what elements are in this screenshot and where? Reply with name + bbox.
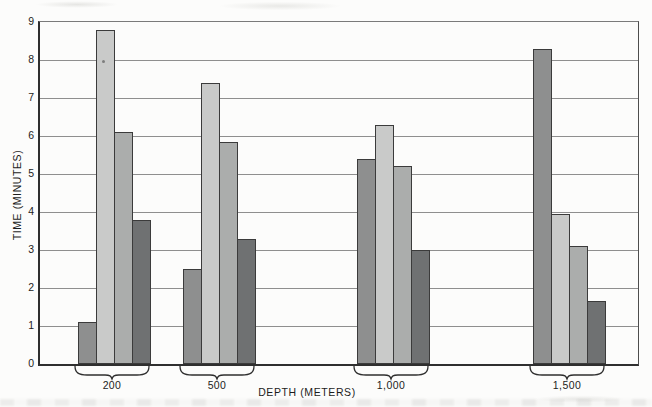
x-axis-title: DEPTH (METERS) <box>227 386 387 398</box>
x-category-label-1500: 1,500 <box>532 379 602 391</box>
bar-bar-1-medium-gray-depth-200 <box>78 322 97 364</box>
y-tick-label-1: 1 <box>10 319 34 331</box>
y-tick-label-2: 2 <box>10 281 34 293</box>
plot-area <box>38 21 639 366</box>
bar-bar-4-dark-gray-depth-1000 <box>411 250 430 364</box>
scan-smudge-top-left <box>22 0 132 9</box>
bar-bar-4-dark-gray-depth-500 <box>237 239 256 364</box>
depth-time-bar-chart: TIME (MINUTES) 0123456789 2005001,0001,5… <box>0 0 652 407</box>
y-tick-label-9: 9 <box>10 15 34 27</box>
x-category-label-200: 200 <box>77 379 147 391</box>
bar-bar-2-light-gray-depth-500 <box>201 83 220 364</box>
bar-bar-4-dark-gray-depth-1500 <box>587 301 606 364</box>
bar-bar-1-medium-gray-depth-500 <box>183 269 202 364</box>
scan-cropped-text-band <box>0 399 652 406</box>
bar-bar-2-light-gray-depth-1500 <box>551 214 570 364</box>
bar-bar-3-gray-depth-1500 <box>569 246 588 364</box>
bar-bar-1-medium-gray-depth-1000 <box>357 159 376 364</box>
y-tick-label-0: 0 <box>10 357 34 369</box>
bar-bar-3-gray-depth-200 <box>114 132 133 364</box>
y-tick-label-4: 4 <box>10 205 34 217</box>
y-tick-label-3: 3 <box>10 243 34 255</box>
y-tick-label-8: 8 <box>10 53 34 65</box>
bar-bar-3-gray-depth-500 <box>219 142 238 364</box>
y-tick-label-7: 7 <box>10 91 34 103</box>
scan-smudge-bottom-right <box>520 394 640 404</box>
bar-bar-4-dark-gray-depth-200 <box>132 220 151 364</box>
y-tick-label-5: 5 <box>10 167 34 179</box>
bar-bar-3-gray-depth-1000 <box>393 166 412 364</box>
bar-bar-2-light-gray-depth-1000 <box>375 125 394 364</box>
scan-smudge-top-center <box>195 0 365 12</box>
y-tick-label-6: 6 <box>10 129 34 141</box>
bar-bar-1-medium-gray-depth-1500 <box>533 49 552 364</box>
bar-bar-2-light-gray-depth-200 <box>96 30 115 364</box>
